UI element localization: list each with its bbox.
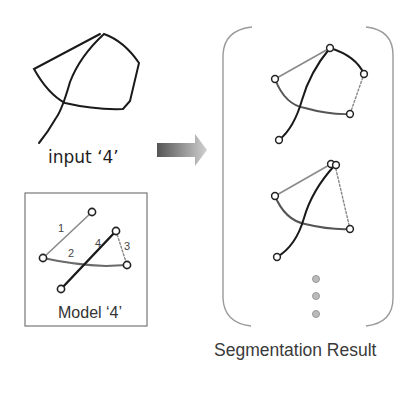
model-label: Model ‘4’ (58, 304, 122, 322)
ellipsis-dots (313, 276, 320, 318)
input-label: input ‘4’ (48, 147, 119, 167)
segmentation-result-label: Segmentation Result (214, 340, 376, 361)
input-stroke (34, 34, 139, 143)
segment-label-3: 3 (124, 240, 130, 252)
model-segments (39, 208, 130, 292)
result-shape-2 (272, 161, 354, 261)
right-arrow-icon (157, 134, 207, 166)
segment-label-1: 1 (58, 222, 64, 234)
segment-label-2: 2 (68, 247, 74, 259)
result-shape-1 (272, 45, 368, 144)
diagram-canvas (0, 0, 415, 397)
segment-label-4: 4 (95, 237, 101, 249)
